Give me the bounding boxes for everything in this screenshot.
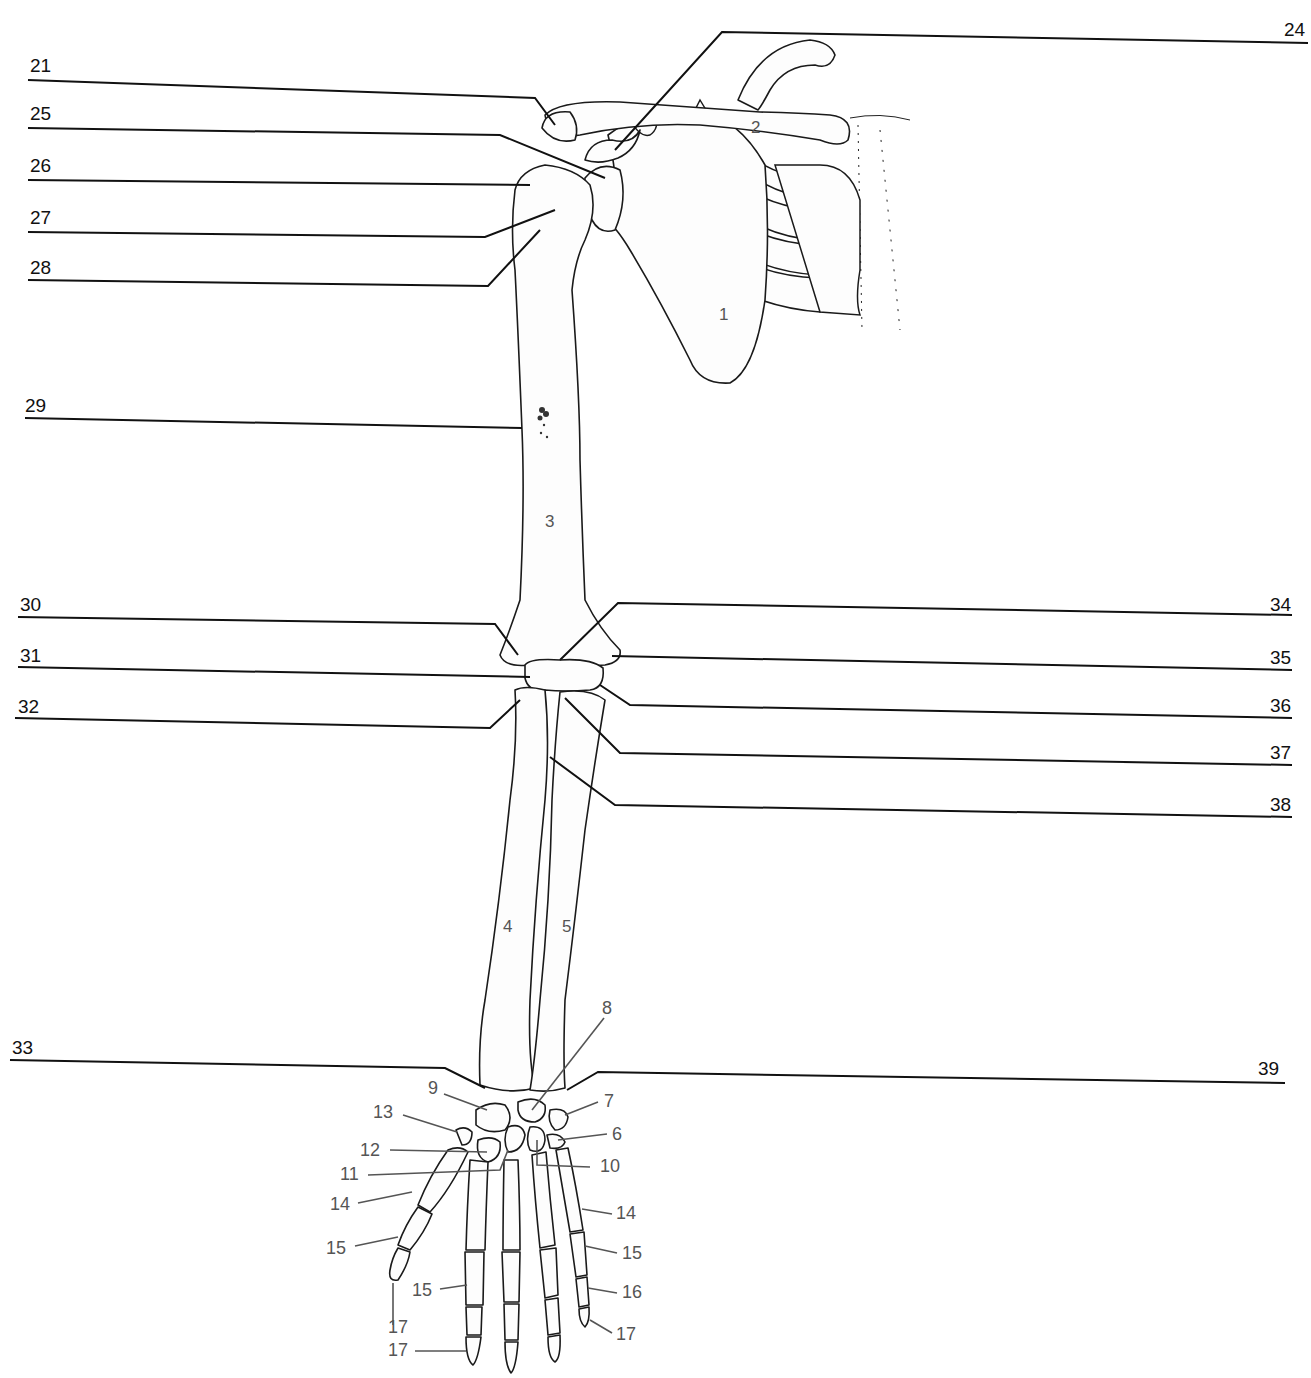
bone-label-2: 2 [751,118,760,137]
numbered-label-10: 10 [600,1156,620,1176]
numbered-leader-line-13 [403,1115,457,1132]
numbered-leader-line-14b [582,1209,612,1214]
numbered-label-15c: 15 [622,1243,642,1263]
blank-leader-line-32 [15,700,520,728]
blank-label-34: 34 [1270,594,1292,615]
numbered-leader-line-9 [444,1094,487,1110]
forearm [480,688,605,1092]
blank-label-24: 24 [1284,19,1306,40]
numbered-leader-line-12 [390,1150,487,1152]
blank-label-33: 33 [12,1037,33,1058]
numbered-leader-line-15b [440,1285,467,1289]
numbered-leader-line-15c [585,1246,617,1253]
anatomy-diagram: 2125262728293031323324343536373839 67891… [0,0,1311,1378]
bone-label-3: 3 [545,512,554,531]
numbered-leader-line-17c [590,1320,612,1333]
blank-leader-line-33 [10,1060,485,1088]
fingers [465,1148,589,1373]
blank-label-36: 36 [1270,695,1291,716]
numbered-label-15b: 15 [412,1280,432,1300]
blank-leader-line-21 [28,80,555,125]
thumb [390,1148,468,1280]
numbered-label-17c: 17 [616,1324,636,1344]
numbered-label-9: 9 [428,1078,438,1098]
numbered-leader-line-16 [588,1288,617,1293]
numbered-leader-line-6 [558,1134,607,1140]
bone-label-1: 1 [719,305,728,324]
numbered-leader-line-15a [355,1237,398,1246]
blank-label-21: 21 [30,55,51,76]
blank-leader-line-34 [560,603,1292,660]
numbered-label-17b: 17 [388,1340,408,1360]
blank-label-35: 35 [1270,647,1291,668]
blank-leader-line-26 [28,180,530,185]
blank-label-25: 25 [30,103,51,124]
bone-label-4: 4 [503,917,512,936]
numbered-label-14b: 14 [616,1203,636,1223]
blank-label-30: 30 [20,594,41,615]
blank-leader-line-38 [550,757,1292,817]
blank-label-31: 31 [20,645,41,666]
blank-leader-line-27 [28,210,555,237]
numbered-label-6: 6 [612,1124,622,1144]
blank-leader-line-29 [25,418,522,428]
numbered-label-17a: 17 [388,1317,408,1337]
numbered-label-8: 8 [602,998,612,1018]
blank-label-38: 38 [1270,794,1291,815]
blank-leader-line-37 [565,698,1292,765]
blank-leader-line-36 [600,685,1292,718]
numbered-label-15a: 15 [326,1238,346,1258]
numbered-leader-line-7 [565,1102,598,1115]
blank-leader-line-25 [28,128,605,178]
blank-leader-line-30 [18,617,518,655]
numbered-label-11: 11 [340,1164,359,1184]
blank-label-28: 28 [30,257,51,278]
blank-leader-line-39 [567,1072,1285,1090]
numbered-leader-line-14a [358,1192,412,1203]
blank-leader-line-35 [612,656,1292,670]
numbered-label-13: 13 [373,1102,393,1122]
blank-label-29: 29 [25,395,46,416]
blank-label-39: 39 [1258,1058,1279,1079]
numbered-label-12: 12 [360,1140,380,1160]
blank-label-27: 27 [30,207,51,228]
numbered-label-14a: 14 [330,1194,350,1214]
numbered-label-16: 16 [622,1282,642,1302]
carpals [456,1099,568,1162]
bone-label-5: 5 [562,917,571,936]
first-rib [738,40,835,110]
blank-label-37: 37 [1270,742,1291,763]
numbered-label-7: 7 [604,1091,614,1111]
blank-label-32: 32 [18,696,39,717]
blank-leader-line-28 [28,230,540,286]
blank-leader-line-31 [18,667,530,677]
blank-label-26: 26 [30,155,51,176]
